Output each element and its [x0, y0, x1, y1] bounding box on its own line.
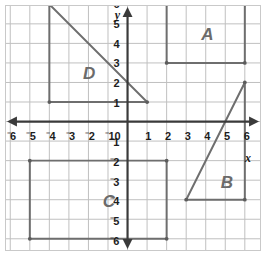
y-axis-name: y: [115, 9, 120, 21]
x-tick-label: ⁻4: [46, 130, 55, 141]
y-tick-label: 4: [114, 38, 120, 49]
x-tick-label: ⁻5: [26, 130, 35, 141]
y-tick-label: ⁻5: [110, 216, 119, 227]
y-tick-label: 3: [114, 58, 120, 69]
shape-label-c: C: [103, 193, 115, 210]
x-tick-label: 4: [204, 130, 210, 141]
x-axis-arrow-left: [7, 117, 17, 127]
x-tick-label: 5: [224, 130, 230, 141]
x-axis-name: x: [245, 152, 251, 164]
y-axis-arrow-down: [123, 239, 133, 249]
y-tick-label: ⁻3: [110, 176, 119, 187]
x-tick-label: 6: [244, 130, 250, 141]
x-tick-label: 1: [145, 130, 151, 141]
plot-frame: ⁻6⁻5⁻4⁻3⁻2⁻1123456654321⁻1⁻2⁻3⁻4⁻5⁻60yxA…: [5, 5, 261, 251]
x-tick-label: ⁻2: [85, 130, 94, 141]
x-tick-label: ⁻3: [66, 130, 75, 141]
x-tick-label: ⁻6: [7, 130, 16, 141]
x-tick-label: 3: [185, 130, 191, 141]
coordinate-plane-figure: ⁻6⁻5⁻4⁻3⁻2⁻1123456654321⁻1⁻2⁻3⁻4⁻5⁻60yxA…: [0, 0, 267, 257]
x-tick-label: 2: [165, 130, 171, 141]
shape-label-b: B: [221, 173, 233, 190]
axes: [6, 6, 260, 250]
x-axis-arrow-right: [249, 117, 259, 127]
shape-label-a: A: [201, 25, 213, 42]
y-tick-label: 1: [114, 97, 120, 108]
y-tick-label: 2: [114, 78, 120, 89]
origin-label: 0: [115, 130, 121, 141]
y-tick-label: ⁻2: [110, 156, 119, 167]
y-tick-label: ⁻6: [110, 235, 119, 246]
y-axis-arrow-up: [123, 7, 133, 17]
shape-label-d: D: [83, 65, 95, 82]
